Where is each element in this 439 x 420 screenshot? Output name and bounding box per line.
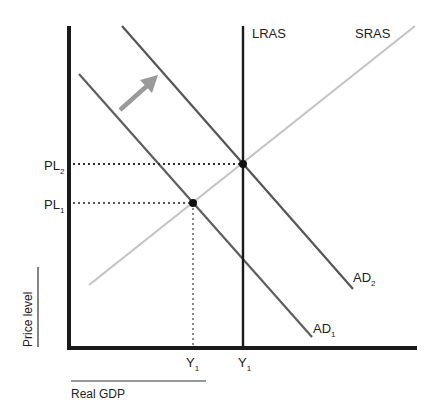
ad1-label: AD1	[313, 321, 336, 339]
sras-label: SRAS	[355, 26, 391, 41]
y1-label-left: Y1	[186, 355, 200, 373]
ad-as-chart: LRAS SRAS AD2 AD1 PL2 PL1 Y1 Y1 Real GDP…	[0, 0, 439, 420]
y-axis-title: Price level	[21, 292, 35, 347]
equilibrium-point-1	[189, 199, 197, 207]
ad2-label: AD2	[353, 270, 376, 288]
lras-label: LRAS	[252, 26, 286, 41]
x-axis-title: Real GDP	[71, 387, 125, 401]
y1-label-lras: Y1	[238, 355, 252, 373]
shift-arrow-icon	[120, 75, 158, 110]
ad2-curve	[122, 26, 353, 289]
sras-curve	[89, 26, 415, 285]
equilibrium-point-2	[239, 160, 247, 168]
pl2-label: PL2	[44, 158, 65, 176]
pl1-label: PL1	[44, 197, 65, 215]
